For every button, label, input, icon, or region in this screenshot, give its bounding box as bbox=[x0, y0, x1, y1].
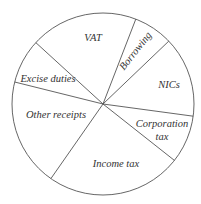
slice-label-other-receipts: Other receipts bbox=[26, 109, 86, 120]
pie-chart: BorrowingNICsCorporationtaxIncome taxOth… bbox=[0, 0, 201, 204]
slice-label-income-tax: Income tax bbox=[92, 158, 140, 169]
slice-label-vat: VAT bbox=[84, 32, 103, 43]
slice-label-excise-duties: Excise duties bbox=[19, 73, 75, 84]
slice-label-corporation-tax: Corporationtax bbox=[136, 118, 189, 142]
slice-label-borrowing: Borrowing bbox=[117, 30, 153, 72]
slice-boundary bbox=[15, 82, 103, 104]
slice-boundaries bbox=[15, 19, 194, 179]
slice-label-nics: NICs bbox=[157, 79, 180, 90]
